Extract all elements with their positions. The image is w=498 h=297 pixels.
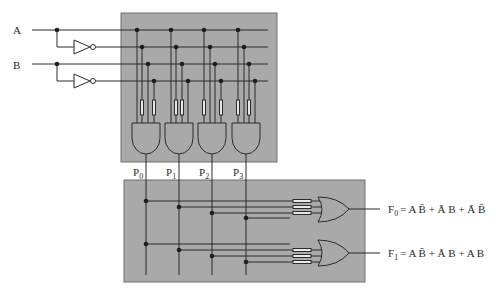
or-array-panel	[124, 180, 365, 282]
product-label-p2: P2	[199, 166, 209, 181]
output-equation-f1: F1= A B̄ + Ā B + A B	[388, 247, 484, 262]
output-equation-f0: F0= A B̄ + Ā B + Ā B̄	[388, 203, 485, 218]
junction-dot	[55, 62, 60, 67]
junction-dot	[55, 28, 60, 33]
product-label-p1: P1	[166, 166, 176, 181]
input-label-b: B	[13, 59, 20, 71]
product-label-p3: P3	[233, 166, 243, 181]
product-label-p0: P0	[133, 166, 143, 181]
inverter-b-icon	[74, 74, 90, 88]
inverter-a-icon	[74, 40, 90, 54]
input-label-a: A	[13, 24, 21, 36]
pla-diagram: A B	[0, 0, 498, 297]
